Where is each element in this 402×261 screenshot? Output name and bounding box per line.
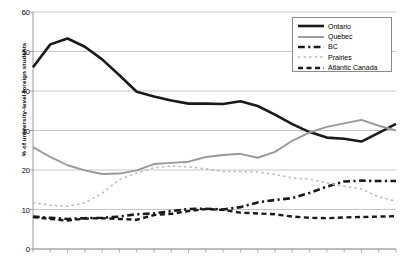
chart-legend: OntarioQuebecBCPrairiesAtlantic Canada <box>292 17 392 72</box>
line-chart: % of university-level foreign students 0… <box>0 0 402 261</box>
legend-item[interactable]: BC <box>297 42 391 52</box>
legend-item[interactable]: Ontario <box>297 21 391 31</box>
legend-item[interactable]: Prairies <box>297 52 391 62</box>
legend-label: Prairies <box>328 54 352 61</box>
series-line-atlantic-canada <box>33 209 396 220</box>
legend-label: Atlantic Canada <box>328 64 377 71</box>
series-line-bc <box>33 181 396 219</box>
legend-label: BC <box>328 43 338 50</box>
legend-item[interactable]: Atlantic Canada <box>297 63 391 73</box>
legend-item[interactable]: Quebec <box>297 31 391 41</box>
legend-swatch-bc-icon <box>297 42 325 52</box>
legend-swatch-quebec-icon <box>297 32 325 42</box>
legend-swatch-atlantic-canada-icon <box>297 63 325 73</box>
legend-label: Ontario <box>328 23 351 30</box>
legend-swatch-ontario-icon <box>297 21 325 31</box>
legend-label: Quebec <box>328 33 353 40</box>
series-line-quebec <box>33 120 396 174</box>
legend-swatch-prairies-icon <box>297 52 325 62</box>
series-line-prairies <box>33 166 396 206</box>
